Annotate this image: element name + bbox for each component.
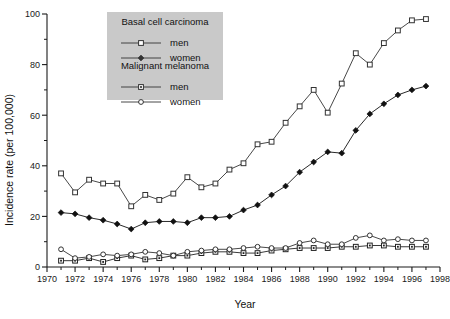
x-tick-label: 1980 xyxy=(177,274,197,284)
data-point xyxy=(283,246,288,251)
y-tick-label: 60 xyxy=(30,111,40,121)
x-tick-label: 1982 xyxy=(205,274,225,284)
chart-background xyxy=(0,0,450,319)
x-tick-label: 1986 xyxy=(262,274,282,284)
y-tick-label: 80 xyxy=(30,60,40,70)
x-tick-label: 1972 xyxy=(65,274,85,284)
data-point xyxy=(424,238,429,243)
y-tick-label: 0 xyxy=(35,262,40,272)
data-point xyxy=(227,247,232,252)
data-point xyxy=(410,18,415,23)
legend-entry-label: men xyxy=(170,37,188,48)
data-point xyxy=(367,62,372,67)
data-point-center xyxy=(313,247,315,249)
data-point xyxy=(129,204,134,209)
y-tick-label: 40 xyxy=(30,161,40,171)
chart-figure: 0204060801001970197219741976197819801982… xyxy=(0,0,450,319)
data-point xyxy=(185,249,190,254)
data-point xyxy=(255,142,260,147)
legend-entry-label: men xyxy=(170,81,188,92)
x-tick-label: 1996 xyxy=(402,274,422,284)
data-point xyxy=(297,104,302,109)
legend-group-title: Basal cell carcinoma xyxy=(121,16,209,27)
data-point-center xyxy=(397,246,399,248)
incidence-rate-line-chart: 0204060801001970197219741976197819801982… xyxy=(0,0,450,319)
data-point xyxy=(241,161,246,166)
data-point xyxy=(87,177,92,182)
data-point xyxy=(297,241,302,246)
data-point-center xyxy=(243,252,245,254)
data-point xyxy=(171,191,176,196)
x-tick-label: 1998 xyxy=(430,274,450,284)
data-point xyxy=(185,175,190,180)
data-point-center xyxy=(383,245,385,247)
data-point xyxy=(101,181,106,186)
data-point-center xyxy=(369,245,371,247)
x-tick-label: 1994 xyxy=(374,274,394,284)
data-point xyxy=(73,256,78,261)
legend-marker-open-circle xyxy=(139,100,144,105)
data-point xyxy=(115,253,120,258)
data-point-center xyxy=(102,261,104,263)
data-point xyxy=(157,198,162,203)
y-tick-label: 20 xyxy=(30,212,40,222)
x-tick-label: 1988 xyxy=(290,274,310,284)
data-point xyxy=(381,238,386,243)
data-point xyxy=(269,246,274,251)
data-point xyxy=(269,139,274,144)
data-point xyxy=(143,249,148,254)
data-point-center xyxy=(327,247,329,249)
x-tick-label: 1978 xyxy=(149,274,169,284)
data-point xyxy=(241,246,246,251)
x-tick-label: 1976 xyxy=(121,274,141,284)
data-point xyxy=(353,51,358,56)
data-point xyxy=(129,252,134,257)
data-point xyxy=(395,237,400,242)
legend-group-title: Malignant melanoma xyxy=(121,60,210,71)
data-point xyxy=(157,251,162,256)
data-point xyxy=(171,253,176,258)
y-axis-title: Incidence rate (per 100,000) xyxy=(3,94,15,226)
data-point-center xyxy=(411,246,413,248)
data-point-center xyxy=(425,246,427,248)
data-point xyxy=(59,171,64,176)
data-point xyxy=(143,192,148,197)
x-tick-label: 1984 xyxy=(233,274,253,284)
data-point xyxy=(339,242,344,247)
x-tick-label: 1970 xyxy=(37,274,57,284)
data-point-center xyxy=(144,259,146,261)
data-point xyxy=(255,244,260,249)
y-tick-label: 100 xyxy=(25,9,40,19)
x-tick-label: 1992 xyxy=(346,274,366,284)
data-point xyxy=(381,41,386,46)
data-point xyxy=(213,247,218,252)
data-point xyxy=(367,233,372,238)
data-point xyxy=(325,242,330,247)
data-point xyxy=(311,88,316,93)
data-point xyxy=(213,181,218,186)
data-point xyxy=(339,81,344,86)
data-point-center xyxy=(299,247,301,249)
data-point xyxy=(353,236,358,241)
data-point-center xyxy=(186,255,188,257)
data-point xyxy=(410,238,415,243)
data-point xyxy=(115,181,120,186)
legend-marker-open-square xyxy=(139,41,144,46)
data-point xyxy=(325,110,330,115)
data-point-center xyxy=(355,246,357,248)
data-point xyxy=(283,120,288,125)
x-tick-label: 1990 xyxy=(318,274,338,284)
data-point xyxy=(424,17,429,22)
data-point xyxy=(87,254,92,259)
data-point xyxy=(101,252,106,257)
legend-marker-dotted-square-center xyxy=(140,86,142,88)
x-axis-title: Year xyxy=(234,298,256,310)
data-point xyxy=(311,238,316,243)
data-point xyxy=(227,167,232,172)
legend-entry-label: women xyxy=(169,96,201,107)
data-point xyxy=(73,190,78,195)
data-point xyxy=(199,185,204,190)
data-point-center xyxy=(158,257,160,259)
data-point xyxy=(59,247,64,252)
data-point xyxy=(395,28,400,33)
